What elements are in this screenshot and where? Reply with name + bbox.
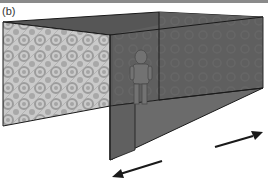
left-arrow-icon: [112, 161, 162, 178]
right-arrow-icon: [215, 131, 263, 147]
front-dark-panel: [110, 103, 135, 160]
patterned-wall: [3, 22, 110, 126]
room-diagram: [0, 0, 268, 185]
far-wall: [159, 17, 263, 100]
